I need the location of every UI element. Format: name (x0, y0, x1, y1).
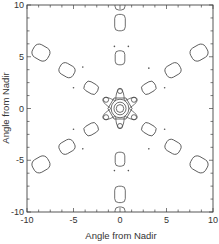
central-ring (116, 105, 123, 113)
point-feature (82, 148, 84, 150)
sidelobe-contour (83, 80, 100, 96)
point-feature (73, 128, 75, 130)
point-feature (164, 128, 166, 130)
sidelobe-contour (163, 138, 183, 157)
y-tick-label: 5 (19, 52, 24, 62)
point-feature (164, 87, 166, 89)
sidelobe-contour (30, 42, 52, 63)
point-feature (114, 46, 116, 48)
contour-chart: -10-50510 -10-50510 Angle from Nadir Ang… (0, 0, 219, 244)
sidelobe-contour (83, 121, 100, 137)
axis-ticks (27, 5, 213, 212)
sidelobe-contour (140, 80, 157, 96)
point-feature (114, 170, 116, 172)
point-feature (73, 87, 75, 89)
y-tick-label: -10 (11, 207, 24, 217)
sidelobe-contour (115, 186, 126, 202)
y-tick-label: 10 (14, 0, 24, 10)
y-tick-label: -5 (16, 155, 24, 165)
y-tick-labels: -10-50510 (11, 0, 24, 217)
sidelobe-contour (140, 121, 157, 137)
point-feature (128, 170, 130, 172)
y-axis-label: Angle from Nadir (0, 72, 11, 143)
x-tick-labels: -10-50510 (20, 215, 218, 225)
sidelobe-contour (115, 51, 125, 65)
point-feature (82, 66, 84, 68)
point-feature (128, 46, 130, 48)
point-feature (148, 67, 150, 69)
sidelobe-contour (115, 14, 126, 30)
x-tick-label: -5 (69, 215, 77, 225)
plot-area (27, 0, 213, 217)
sidelobe-contour (115, 152, 125, 166)
central-ring (114, 102, 126, 115)
contour-lines (30, 0, 210, 217)
sidelobe-contour (188, 42, 210, 63)
x-axis-label: Angle from Nadir (85, 230, 156, 241)
plot-frame (27, 5, 213, 212)
sidelobe-contour (30, 154, 52, 175)
y-tick-label: 0 (19, 104, 24, 114)
sidelobe-contour (57, 61, 77, 80)
sidelobe-contour (163, 61, 183, 80)
point-feature (148, 148, 150, 150)
x-tick-label: 10 (208, 215, 218, 225)
x-tick-label: 5 (164, 215, 169, 225)
sidelobe-contour (57, 138, 77, 157)
sidelobe-contour (188, 154, 210, 175)
x-tick-label: 0 (117, 215, 122, 225)
